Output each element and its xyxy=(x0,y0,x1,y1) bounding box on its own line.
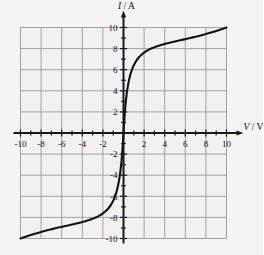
y-tick-label: -10 xyxy=(106,234,118,244)
x-axis-title: V / V xyxy=(244,122,264,132)
x-tick-label: 6 xyxy=(183,139,188,149)
x-tick-label: -10 xyxy=(15,139,27,149)
x-tick-label: -4 xyxy=(79,139,87,149)
x-tick-label: 8 xyxy=(204,139,209,149)
x-tick-label: 10 xyxy=(222,139,232,149)
y-tick-label: -4 xyxy=(110,170,118,180)
y-axis-title: I / A xyxy=(117,1,135,11)
x-tick-label: -8 xyxy=(37,139,45,149)
x-tick-label: 4 xyxy=(162,139,167,149)
y-tick-label: -8 xyxy=(110,213,118,223)
iv-characteristic-chart: -10-8-6-4-2246810 108642-2-4-6-8-10 V / … xyxy=(0,0,263,255)
y-tick-label: 2 xyxy=(113,107,118,117)
x-tick-label: -6 xyxy=(58,139,66,149)
x-tick-label: 2 xyxy=(142,139,147,149)
y-tick-label: 10 xyxy=(109,23,119,33)
y-tick-label: 6 xyxy=(113,65,118,75)
y-tick-label: -2 xyxy=(110,149,118,159)
x-tick-label: -2 xyxy=(99,139,107,149)
y-tick-label: 4 xyxy=(113,86,118,96)
y-tick-label: 8 xyxy=(113,44,118,54)
chart-figure: -10-8-6-4-2246810 108642-2-4-6-8-10 V / … xyxy=(0,0,263,255)
